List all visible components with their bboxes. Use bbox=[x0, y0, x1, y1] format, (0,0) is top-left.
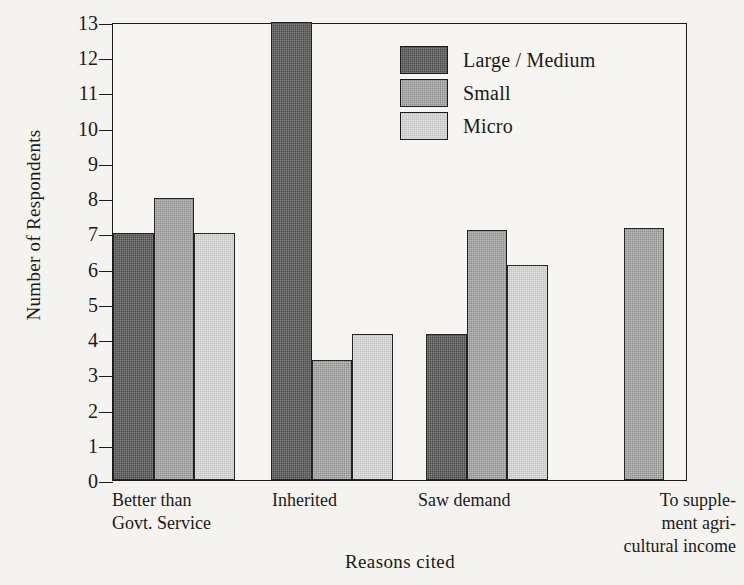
bar-1-1 bbox=[312, 360, 353, 480]
bar-1-2 bbox=[352, 334, 393, 480]
x-category-label-line: Govt. Service bbox=[112, 512, 234, 535]
y-tick-mark-7 bbox=[99, 235, 113, 236]
x-category-label-line: ment agri- bbox=[604, 512, 736, 535]
y-tick-label-0: 0 bbox=[58, 471, 98, 491]
bar-0-2 bbox=[194, 233, 235, 480]
y-tick-label-4: 4 bbox=[58, 330, 98, 350]
x-category-label-3: To supple-ment agri-cultural income bbox=[604, 489, 736, 558]
y-tick-label-12: 12 bbox=[58, 48, 98, 68]
y-tick-label-3: 3 bbox=[58, 365, 98, 385]
y-tick-mark-9 bbox=[99, 165, 113, 166]
x-axis-title: Reasons cited bbox=[112, 551, 688, 573]
y-tick-mark-5 bbox=[99, 306, 113, 307]
y-axis-title: Number of Respondents bbox=[23, 105, 45, 345]
bar-2-0 bbox=[426, 334, 467, 480]
y-tick-label-11: 11 bbox=[58, 83, 98, 103]
y-tick-mark-2 bbox=[99, 412, 113, 413]
x-category-label-line: Better than bbox=[112, 489, 234, 512]
y-tick-label-6: 6 bbox=[58, 260, 98, 280]
y-tick-mark-0 bbox=[99, 482, 113, 483]
x-category-label-1: Inherited bbox=[272, 489, 394, 512]
legend-swatch-0 bbox=[400, 46, 448, 74]
y-tick-mark-13 bbox=[99, 24, 113, 25]
y-tick-label-13: 13 bbox=[58, 13, 98, 33]
y-tick-label-9: 9 bbox=[58, 154, 98, 174]
legend-label-1: Small bbox=[463, 82, 511, 105]
y-tick-label-8: 8 bbox=[58, 189, 98, 209]
y-tick-mark-6 bbox=[99, 271, 113, 272]
bar-3-1 bbox=[624, 228, 665, 480]
legend-item-0: Large / Medium bbox=[400, 45, 595, 75]
y-tick-label-7: 7 bbox=[58, 224, 98, 244]
legend-swatch-1 bbox=[400, 79, 448, 107]
x-category-label-line: To supple- bbox=[604, 489, 736, 512]
legend-item-2: Micro bbox=[400, 111, 595, 141]
y-tick-mark-12 bbox=[99, 59, 113, 60]
legend-item-1: Small bbox=[400, 78, 595, 108]
bar-0-1 bbox=[154, 198, 195, 480]
legend: Large / MediumSmallMicro bbox=[400, 45, 595, 144]
x-category-label-0: Better thanGovt. Service bbox=[112, 489, 234, 535]
y-tick-mark-11 bbox=[99, 94, 113, 95]
x-category-label-line: Inherited bbox=[272, 489, 394, 512]
y-tick-mark-1 bbox=[99, 447, 113, 448]
bar-1-0 bbox=[271, 22, 312, 480]
chart-figure: Number of Respondents 012345678910111213… bbox=[0, 0, 744, 585]
bar-2-2 bbox=[507, 265, 548, 480]
bar-0-0 bbox=[113, 233, 154, 480]
y-tick-label-1: 1 bbox=[58, 436, 98, 456]
y-tick-label-10: 10 bbox=[58, 119, 98, 139]
legend-label-2: Micro bbox=[463, 115, 513, 138]
x-category-label-2: Saw demand bbox=[418, 489, 558, 512]
y-tick-label-5: 5 bbox=[58, 295, 98, 315]
x-category-label-line: Saw demand bbox=[418, 489, 558, 512]
y-tick-mark-10 bbox=[99, 130, 113, 131]
y-tick-label-2: 2 bbox=[58, 401, 98, 421]
legend-label-0: Large / Medium bbox=[463, 49, 595, 72]
y-tick-mark-3 bbox=[99, 376, 113, 377]
y-tick-mark-8 bbox=[99, 200, 113, 201]
bar-2-1 bbox=[467, 230, 508, 480]
legend-swatch-2 bbox=[400, 112, 448, 140]
y-tick-mark-4 bbox=[99, 341, 113, 342]
